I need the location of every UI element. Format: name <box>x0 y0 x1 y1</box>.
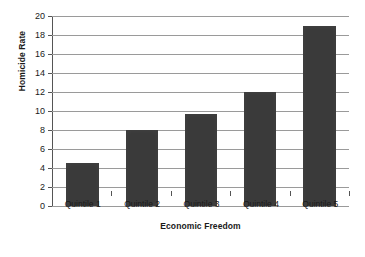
bar <box>244 92 277 206</box>
x-axis-tick-labels: Quintile 1Quintile 2Quintile 3Quintile 4… <box>53 200 350 209</box>
x-axis-tick <box>230 191 231 196</box>
y-axis-tick-label: 14 <box>35 69 45 78</box>
x-axis-category-label: Quintile 5 <box>291 200 350 209</box>
bar-slot <box>290 16 349 206</box>
y-axis-tick <box>48 149 52 150</box>
y-axis-tick <box>48 35 52 36</box>
x-axis-tick <box>290 191 291 196</box>
x-axis-category-label: Quintile 4 <box>231 200 290 209</box>
y-axis-tick <box>48 92 52 93</box>
y-axis-tick <box>48 187 52 188</box>
plot-area: 20181614121086420 <box>52 16 349 207</box>
y-axis-tick-label: 18 <box>35 31 45 40</box>
y-axis-tick <box>48 168 52 169</box>
x-axis-category-label: Quintile 1 <box>53 200 112 209</box>
y-axis-tick-label: 20 <box>35 12 45 21</box>
y-axis-tick-label: 12 <box>35 88 45 97</box>
x-axis-ticks <box>52 191 349 196</box>
y-axis-tick <box>48 16 52 17</box>
bar-slot <box>171 16 230 206</box>
y-axis-tick-label: 4 <box>40 164 45 173</box>
homicide-rate-bar-chart: Homicide Rate 20181614121086420 Quintile… <box>0 0 365 257</box>
y-axis-tick-label: 0 <box>40 202 45 211</box>
y-axis-tick-label: 8 <box>40 126 45 135</box>
x-axis-title: Economic Freedom <box>52 221 349 231</box>
x-axis-tick <box>171 191 172 196</box>
x-axis-category-label: Quintile 2 <box>112 200 171 209</box>
y-axis-tick <box>48 130 52 131</box>
x-axis-category-label: Quintile 3 <box>172 200 231 209</box>
bar <box>303 26 336 207</box>
x-axis-tick <box>111 191 112 196</box>
bar-slot <box>53 16 112 206</box>
y-axis-tick-label: 2 <box>40 183 45 192</box>
y-axis-tick-label: 16 <box>35 50 45 59</box>
y-axis-tick <box>48 73 52 74</box>
bar-slot <box>112 16 171 206</box>
y-axis-tick-label: 6 <box>40 145 45 154</box>
y-axis-tick-label: 10 <box>35 107 45 116</box>
y-axis-tick <box>48 206 52 207</box>
bars-layer <box>53 16 349 206</box>
bar-slot <box>231 16 290 206</box>
y-axis-tick <box>48 111 52 112</box>
x-axis-tick <box>52 191 53 196</box>
y-axis-title: Homicide Rate <box>17 6 27 116</box>
x-axis-tick <box>349 191 350 196</box>
y-axis-tick <box>48 54 52 55</box>
